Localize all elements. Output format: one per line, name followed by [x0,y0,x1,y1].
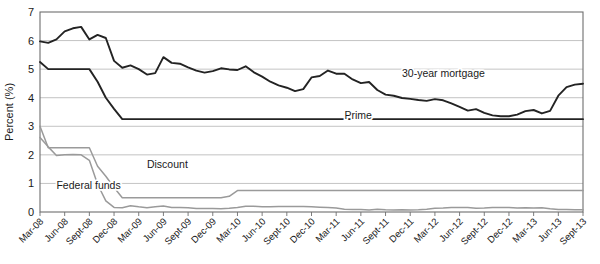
y-tick-label: 5 [28,63,34,75]
x-tick-label: Mar-13 [510,216,539,245]
series-line-prime [40,62,583,119]
x-tick-label: Sept-12 [458,216,489,247]
series-line-discount [40,126,583,197]
plot-border [40,12,583,212]
x-tick-label: Dec-09 [189,216,218,245]
y-axis-title: Percent (%) [3,83,15,141]
x-tick-label: Dec-10 [287,216,316,245]
series-label-federal-funds: Federal funds [56,179,120,191]
gridlines [40,41,583,184]
x-tick-label: Sept-09 [162,216,193,247]
x-tick-label: Sept-11 [360,216,391,247]
y-axis-ticks: 01234567 [28,6,34,218]
y-tick-label: 0 [28,206,34,218]
y-tick-label: 7 [28,6,34,18]
x-tick-label: Dec-08 [90,216,119,245]
x-tick-label: Mar-08 [16,216,45,245]
series-label-prime: Prime [344,109,372,121]
y-tick-label: 4 [28,92,34,104]
x-tick-label: Mar-12 [411,216,440,245]
series-label-30-year-mortgage: 30-year mortgage [402,67,485,79]
y-tick-label: 6 [28,35,34,47]
y-tick-label: 3 [28,120,34,132]
series-line-federal-funds [40,137,583,210]
x-tick-label: Mar-11 [313,216,342,245]
x-tick-label: Dec-12 [485,216,514,245]
y-tick-label: 2 [28,149,34,161]
x-tick-label: Sept-13 [557,216,588,247]
x-tick-label: Sept-10 [261,216,292,247]
x-tick-label: Mar-10 [214,216,243,245]
chart-canvas: 01234567 Mar-08Jun-08Sept-08Dec-08Mar-09… [0,0,600,264]
x-axis-ticks: Mar-08Jun-08Sept-08Dec-08Mar-09Jun-09Sep… [16,212,588,247]
x-tick-label: Sept-08 [63,216,94,247]
interest-rates-chart: 01234567 Mar-08Jun-08Sept-08Dec-08Mar-09… [0,0,600,264]
x-tick-label: Dec-11 [387,216,416,245]
data-series [40,27,583,210]
y-tick-label: 1 [28,177,34,189]
series-labels: 30-year mortgage30-year mortgagePrimePri… [56,67,485,190]
series-label-discount: Discount [147,158,188,170]
plot-frame [40,12,583,212]
x-tick-label: Mar-09 [115,216,144,245]
